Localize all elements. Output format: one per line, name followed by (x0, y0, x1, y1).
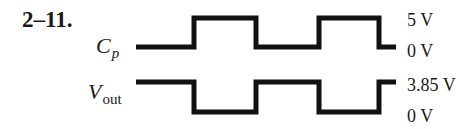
timing-diagram: 2–11. Cp Vout 5 V 0 V 3.85 V 0 V (0, 0, 469, 129)
waveform-vout (136, 82, 396, 112)
waveforms (0, 0, 469, 129)
cp-high-level-label: 5 V (407, 11, 433, 29)
cp-low-level-label: 0 V (407, 42, 433, 60)
vout-low-level-label: 0 V (407, 107, 433, 125)
vout-high-level-label: 3.85 V (407, 76, 456, 94)
waveform-cp (136, 18, 396, 47)
